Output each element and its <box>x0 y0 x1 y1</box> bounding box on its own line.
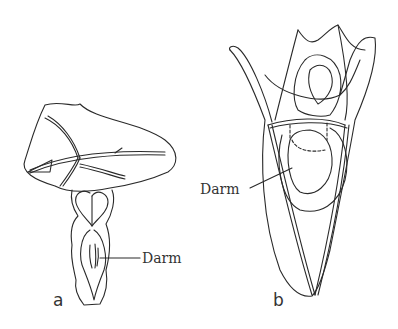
panel-label-a: a <box>53 290 63 310</box>
diagram-canvas <box>0 0 398 329</box>
panel-a-drawing <box>24 103 176 305</box>
darm-label-b: Darm <box>200 181 240 197</box>
panel-label-b: b <box>273 290 284 310</box>
darm-label-a: Darm <box>142 250 182 266</box>
panel-b-drawing <box>229 25 375 296</box>
